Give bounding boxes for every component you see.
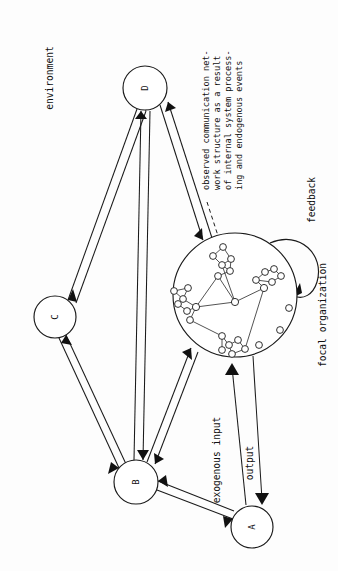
node-c-label: C <box>50 314 60 319</box>
annotation-line-3: of internal system process- <box>223 50 233 190</box>
node-b-label: B <box>131 479 141 484</box>
label-focal-organization: focal organization <box>317 263 328 367</box>
node-d-label: D <box>140 85 150 90</box>
annotation-block: observed communication net- work structu… <box>201 50 244 190</box>
node-b[interactable]: B <box>114 460 158 504</box>
annotation-line-4: ing and endogenous events <box>234 61 244 190</box>
node-a[interactable]: A <box>231 506 273 548</box>
edge-exogenous-input <box>225 363 246 505</box>
systems-network-diagram: D C B A environment feedback focal organ… <box>0 0 338 571</box>
edge-b-focal <box>147 348 198 464</box>
edge-b-c <box>59 335 126 474</box>
annotation-line-1: observed communication net- <box>201 50 211 190</box>
node-c[interactable]: C <box>34 296 76 338</box>
label-feedback: feedback <box>306 177 317 223</box>
annotation-line-2: work structure as a result <box>212 55 222 190</box>
label-exogenous-input: exogenous input <box>211 417 222 504</box>
node-d[interactable]: D <box>123 66 167 110</box>
node-a-label: A <box>247 524 257 530</box>
edge-b-d <box>134 111 150 460</box>
edge-output <box>253 356 269 505</box>
focal-organization-group[interactable] <box>171 233 297 357</box>
diagram-canvas: D C B A environment feedback focal organ… <box>0 0 338 571</box>
label-environment: environment <box>44 46 55 110</box>
label-output: output <box>244 446 255 481</box>
edge-b-a <box>157 475 234 528</box>
